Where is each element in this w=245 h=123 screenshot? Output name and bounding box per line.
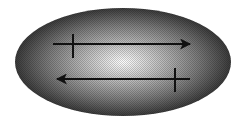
ellipse-dither-overlay — [15, 8, 231, 116]
diagram-svg — [0, 0, 245, 123]
diagram-canvas — [0, 0, 245, 123]
